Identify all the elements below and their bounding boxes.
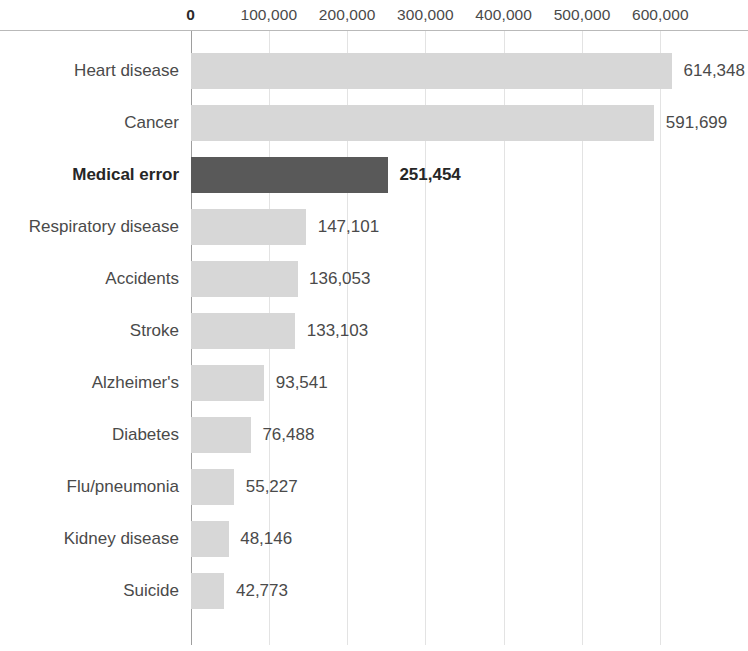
category-label: Suicide: [0, 581, 179, 601]
x-axis-tick-300000: 300,000: [397, 6, 454, 24]
value-label: 48,146: [240, 529, 292, 549]
value-label: 591,699: [666, 113, 727, 133]
value-label: 251,454: [399, 165, 460, 185]
bar: [191, 313, 295, 349]
value-label: 133,103: [307, 321, 368, 341]
table-row: Stroke133,103: [0, 305, 748, 357]
table-row: Accidents136,053: [0, 253, 748, 305]
x-axis-tick-200000: 200,000: [319, 6, 376, 24]
bar: [191, 417, 251, 453]
category-label: Respiratory disease: [0, 217, 179, 237]
bar: [191, 521, 229, 557]
x-axis-tick-400000: 400,000: [475, 6, 532, 24]
x-axis-tick-100000: 100,000: [240, 6, 297, 24]
category-label: Medical error: [0, 165, 179, 185]
category-label: Heart disease: [0, 61, 179, 81]
category-label: Flu/pneumonia: [0, 477, 179, 497]
value-label: 76,488: [262, 425, 314, 445]
bar: [191, 53, 672, 89]
table-row: Cancer591,699: [0, 97, 748, 149]
bar: [191, 261, 298, 297]
table-row: Respiratory disease147,101: [0, 201, 748, 253]
table-row: Suicide42,773: [0, 565, 748, 617]
bar: [191, 573, 224, 609]
x-axis-tick-600000: 600,000: [632, 6, 689, 24]
value-label: 614,348: [684, 61, 745, 81]
table-row: Flu/pneumonia55,227: [0, 461, 748, 513]
bar: [191, 365, 264, 401]
x-axis-tick-0: 0: [186, 6, 195, 24]
table-row: Diabetes76,488: [0, 409, 748, 461]
bar: [191, 105, 654, 141]
table-row: Alzheimer's93,541: [0, 357, 748, 409]
bar-rows: Heart disease614,348Cancer591,699Medical…: [0, 31, 748, 651]
table-row: Kidney disease48,146: [0, 513, 748, 565]
table-row: Medical error251,454: [0, 149, 748, 201]
category-label: Kidney disease: [0, 529, 179, 549]
value-label: 55,227: [246, 477, 298, 497]
category-label: Alzheimer's: [0, 373, 179, 393]
category-label: Cancer: [0, 113, 179, 133]
category-label: Accidents: [0, 269, 179, 289]
value-label: 93,541: [276, 373, 328, 393]
value-label: 42,773: [236, 581, 288, 601]
value-label: 136,053: [309, 269, 370, 289]
value-label: 147,101: [318, 217, 379, 237]
bar: [191, 157, 388, 193]
x-axis-tick-500000: 500,000: [554, 6, 611, 24]
category-label: Stroke: [0, 321, 179, 341]
bar-chart: 0100,000200,000300,000400,000500,000600,…: [0, 0, 748, 651]
x-axis-tick-labels: 0100,000200,000300,000400,000500,000600,…: [0, 0, 748, 30]
category-label: Diabetes: [0, 425, 179, 445]
table-row: Heart disease614,348: [0, 45, 748, 97]
bar: [191, 469, 234, 505]
bar: [191, 209, 306, 245]
